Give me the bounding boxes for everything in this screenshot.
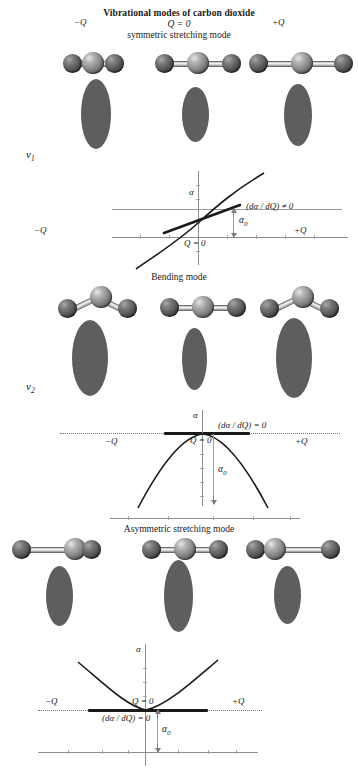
nu1-subscript: 1 <box>31 154 35 163</box>
graph1-derivative-label: (dα / dQ) ≠ 0 <box>246 201 293 211</box>
graph-asymmetric-stretch: α −Q +Q Q = 0 (dα / dQ) = 0 α0 <box>30 630 358 769</box>
polarizability-ellipsoid-asymmetric-minus-q <box>46 566 73 626</box>
polarizability-ellipsoid-symmetric-q-zero <box>182 87 209 142</box>
nu2-label: ν2 <box>26 380 35 395</box>
nu1-label: ν1 <box>26 148 35 163</box>
molecule-asymmetric-plus-q <box>246 538 350 560</box>
graph2-alpha-zero-label: α0 <box>218 464 227 477</box>
graph2-bottom-axis <box>110 518 300 519</box>
graph2-x-right-label: +Q <box>295 436 308 446</box>
graph1-y-label: α <box>189 187 194 197</box>
nu2-subscript: 2 <box>31 386 35 395</box>
polarizability-ellipsoid-bending-minus-q <box>72 320 108 396</box>
graph1-x-left-label: −Q <box>34 225 47 235</box>
graph-bending: α (dα / dQ) = 0 −Q +Q Q = 0 α0 <box>60 396 358 508</box>
graph3-origin-label: Q = 0 <box>132 696 154 706</box>
graph2-y-label: α <box>193 410 198 420</box>
graph2-origin-label: Q = 0 <box>190 435 212 445</box>
molecule-asymmetric-minus-q <box>12 538 112 560</box>
graph1-alpha-zero-label: α0 <box>239 215 248 228</box>
graph2-x-left-label: −Q <box>105 436 118 446</box>
molecule-asymmetric-q-zero <box>140 538 230 560</box>
graph1-x-right-label: +Q <box>294 225 307 235</box>
graph-symmetric-curve <box>112 165 358 270</box>
molecule-symmetric-plus-q <box>249 52 349 74</box>
symmetric-mode-label: symmetric stretching mode <box>0 30 358 40</box>
molecule-bending-plus-q <box>258 288 348 314</box>
graph2-curve <box>60 396 358 508</box>
molecule-bending-q-zero <box>158 296 248 318</box>
graph3-y-label: α <box>136 644 141 654</box>
polarizability-ellipsoid-asymmetric-q-zero <box>164 560 193 632</box>
graph1-origin-label: Q = 0 <box>184 238 206 248</box>
column-label-plus-q: +Q <box>272 17 285 27</box>
polarizability-ellipsoid-asymmetric-plus-q <box>274 566 301 624</box>
polarizability-ellipsoid-symmetric-plus-q <box>284 84 312 146</box>
graph-symmetric-stretch: α (dα / dQ) ≠ 0 α0 −Q +Q Q = 0 <box>112 165 358 265</box>
column-label-minus-q: −Q <box>74 17 87 27</box>
molecule-symmetric-minus-q <box>58 52 134 74</box>
molecule-symmetric-q-zero <box>153 52 243 74</box>
asymmetric-mode-label: Asymmetric stretching mode <box>0 524 358 534</box>
graph3-derivative-label: (dα / dQ) = 0 <box>102 713 150 723</box>
figure-title: Vibrational modes of carbon dioxide <box>0 8 358 18</box>
molecule-bending-minus-q <box>56 288 146 314</box>
graph3-x-left-label: −Q <box>45 696 58 706</box>
polarizability-ellipsoid-bending-plus-q <box>276 318 312 398</box>
figure-root: Vibrational modes of carbon dioxide Q = … <box>0 0 358 769</box>
polarizability-ellipsoid-symmetric-minus-q <box>81 79 111 149</box>
bending-mode-label: Bending mode <box>0 272 358 282</box>
polarizability-ellipsoid-bending-q-zero <box>182 328 207 390</box>
graph2-derivative-label: (dα / dQ) = 0 <box>218 420 266 430</box>
q-zero-top-label: Q = 0 <box>0 19 358 29</box>
graph3-alpha-zero-label: α0 <box>162 724 171 737</box>
graph3-curve <box>30 630 358 769</box>
graph3-x-right-label: +Q <box>232 696 245 706</box>
